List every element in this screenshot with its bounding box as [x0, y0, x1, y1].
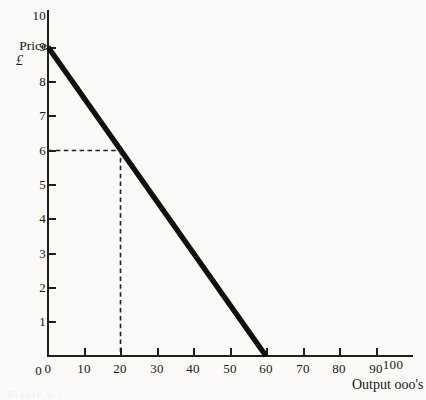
- page-artifact-text: Figure 9.1: [8, 388, 63, 400]
- demand-curve-line: [48, 47, 266, 356]
- curve-layer: [0, 0, 426, 400]
- plot-area: 10 9 8 7 6 5 4 3 2 1 0 0 10 20 30 40 50 …: [0, 0, 426, 400]
- demand-curve-figure: 10 9 8 7 6 5 4 3 2 1 0 0 10 20 30 40 50 …: [0, 0, 426, 400]
